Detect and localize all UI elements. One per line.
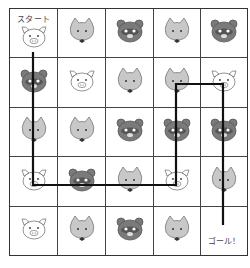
cell-r2-c2 — [58, 58, 106, 108]
bear-face-icon — [115, 215, 145, 247]
cell-r2-c4 — [154, 58, 201, 108]
cat-face-icon — [19, 116, 49, 148]
cell-r1-c5 — [201, 9, 247, 58]
cell-r5-c1 — [10, 207, 58, 255]
cat-face-icon — [67, 116, 97, 148]
cell-r4-c2 — [58, 157, 106, 207]
pig-face-icon — [19, 166, 49, 198]
pig-face-icon — [209, 67, 239, 99]
cell-r5-c2 — [58, 207, 106, 255]
cat-face-icon — [162, 17, 192, 49]
pig-face-icon — [19, 215, 49, 247]
pig-face-icon — [67, 67, 97, 99]
cell-r4-c5 — [201, 157, 247, 207]
cell-r1-c2 — [58, 9, 106, 58]
pig-face-icon — [19, 23, 49, 55]
bear-face-icon — [209, 17, 239, 49]
cell-r2-c3 — [106, 58, 154, 108]
cat-face-icon — [162, 215, 192, 247]
cat-face-icon — [209, 166, 239, 198]
bear-face-icon — [19, 67, 49, 99]
start-label: スタート — [10, 13, 57, 24]
cat-face-icon — [67, 215, 97, 247]
cat-face-icon — [115, 67, 145, 99]
maze-grid: スタートゴール！ — [9, 8, 248, 256]
cell-r1-c4 — [154, 9, 201, 58]
cat-face-icon — [67, 17, 97, 49]
bear-face-icon — [209, 116, 239, 148]
cell-r4-c4 — [154, 157, 201, 207]
cell-r3-c1 — [10, 108, 58, 157]
bear-face-icon — [115, 116, 145, 148]
cell-r3-c2 — [58, 108, 106, 157]
bear-face-icon — [67, 166, 97, 198]
cell-r3-c4 — [154, 108, 201, 157]
bear-face-icon — [115, 17, 145, 49]
cell-r3-c5 — [201, 108, 247, 157]
cell-r4-c1 — [10, 157, 58, 207]
cat-face-icon — [115, 166, 145, 198]
cell-r5-c5: ゴール！ — [201, 207, 247, 255]
cat-face-icon — [162, 67, 192, 99]
goal-label: ゴール！ — [208, 235, 240, 246]
cell-r1-c1: スタート — [10, 9, 58, 58]
cell-r2-c5 — [201, 58, 247, 108]
pig-face-icon — [162, 166, 192, 198]
cell-r5-c4 — [154, 207, 201, 255]
cell-r2-c1 — [10, 58, 58, 108]
cell-r1-c3 — [106, 9, 154, 58]
cell-r5-c3 — [106, 207, 154, 255]
bear-face-icon — [162, 116, 192, 148]
cell-r4-c3 — [106, 157, 154, 207]
cell-r3-c3 — [106, 108, 154, 157]
